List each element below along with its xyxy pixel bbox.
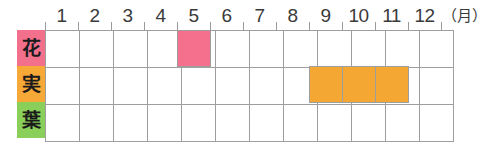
month-label: 9 [309, 2, 342, 30]
grid-cell[interactable] [250, 105, 284, 142]
grid-cell[interactable] [420, 105, 454, 142]
month-label: 10 [342, 2, 375, 30]
grid-cell[interactable] [114, 31, 148, 68]
filled-cell-divider [375, 66, 376, 103]
axis-unit-label: （月） [442, 2, 482, 30]
month-label: 4 [144, 2, 177, 30]
filled-cell-花 [177, 30, 211, 67]
grid-cell[interactable] [216, 105, 250, 142]
grid-cell[interactable] [216, 68, 250, 105]
grid-cell[interactable] [284, 105, 318, 142]
grid-cell[interactable] [386, 105, 420, 142]
table-row [46, 31, 454, 68]
month-label: 11 [375, 2, 408, 30]
grid-cell[interactable] [250, 31, 284, 68]
grid-cell[interactable] [420, 31, 454, 68]
month-label: 7 [243, 2, 276, 30]
grid-cell[interactable] [216, 31, 250, 68]
row-label-fruit: 実 [17, 66, 45, 102]
grid-cell[interactable] [284, 31, 318, 68]
month-label: 1 [45, 2, 78, 30]
grid-cell[interactable] [182, 68, 216, 105]
grid-cell[interactable] [352, 31, 386, 68]
row-label-flower: 花 [17, 30, 45, 66]
row-label-leaf: 葉 [17, 102, 45, 138]
grid-cell[interactable] [352, 105, 386, 142]
filled-cell-実 [309, 66, 409, 103]
filled-cell-divider [342, 66, 343, 103]
month-label: 2 [78, 2, 111, 30]
grid-cell[interactable] [318, 31, 352, 68]
grid-cell[interactable] [250, 68, 284, 105]
grid-cell[interactable] [148, 105, 182, 142]
grid-cell[interactable] [80, 31, 114, 68]
month-label: 6 [210, 2, 243, 30]
grid-cell[interactable] [80, 105, 114, 142]
grid-cell[interactable] [420, 68, 454, 105]
table-row [46, 105, 454, 142]
month-label: 3 [111, 2, 144, 30]
grid-cell[interactable] [386, 31, 420, 68]
grid-cell[interactable] [182, 105, 216, 142]
month-label: 5 [177, 2, 210, 30]
month-label: 12 [408, 2, 441, 30]
grid-cell[interactable] [46, 31, 80, 68]
grid-cell[interactable] [148, 68, 182, 105]
grid-cell[interactable] [114, 68, 148, 105]
month-label: 8 [276, 2, 309, 30]
grid-cell[interactable] [80, 68, 114, 105]
row-label-column: 花 実 葉 [17, 30, 45, 138]
paper-edge [0, 149, 470, 153]
grid-cell[interactable] [318, 105, 352, 142]
grid-cell[interactable] [114, 105, 148, 142]
grid-cell[interactable] [46, 105, 80, 142]
grid-cell[interactable] [46, 68, 80, 105]
